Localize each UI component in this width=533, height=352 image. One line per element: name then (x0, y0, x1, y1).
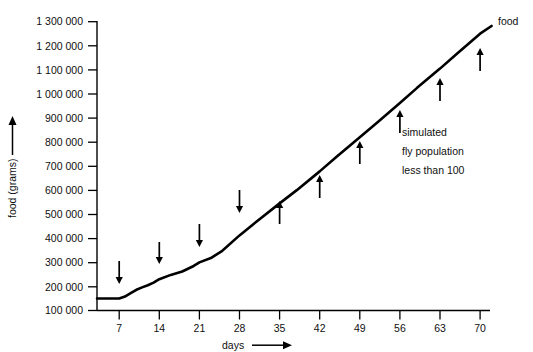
arrow-day-21 (196, 224, 203, 247)
x-tick-label: 14 (153, 322, 165, 334)
y-tick-label: 400 000 (45, 232, 83, 244)
x-axis-direction-arrow-head (283, 341, 292, 349)
y-tick-label: 300 000 (45, 256, 83, 268)
x-tick-label: 70 (474, 322, 486, 334)
annotation-line-1: simulated (402, 126, 447, 138)
arrow-day-7 (116, 261, 123, 284)
y-tick-label: 900 000 (45, 112, 83, 124)
x-tick-label: 49 (354, 322, 366, 334)
x-tick-label: 42 (314, 322, 326, 334)
series-label-food: food (498, 15, 519, 27)
x-axis-title: days (222, 339, 244, 351)
y-tick-marks (88, 22, 97, 311)
y-axis-title: food (grams) (6, 158, 18, 218)
fly-population-food-chart: 1 300 000 1 200 000 1 100 000 1 000 000 … (0, 0, 533, 352)
y-tick-label: 100 000 (45, 304, 83, 316)
arrow-day-70 (477, 48, 484, 71)
x-tick-label: 35 (274, 322, 286, 334)
arrow-day-63 (436, 78, 443, 101)
arrow-day-49 (356, 141, 363, 164)
x-tick-marks (119, 311, 480, 320)
annotation-line-2: fly population (402, 145, 464, 157)
x-tick-label: 21 (194, 322, 206, 334)
x-tick-label: 7 (116, 322, 122, 334)
y-tick-label: 1 100 000 (36, 64, 83, 76)
text-annotation-block: simulated fly population less than 100 (402, 126, 465, 176)
y-axis-direction-arrow-head (9, 116, 17, 125)
arrow-day-14 (156, 242, 163, 264)
y-tick-labels: 1 300 000 1 200 000 1 100 000 1 000 000 … (36, 15, 83, 316)
x-tick-label: 56 (394, 322, 406, 334)
y-tick-label: 1 200 000 (36, 40, 83, 52)
y-tick-label: 600 000 (45, 184, 83, 196)
y-tick-label: 200 000 (45, 281, 83, 293)
y-tick-label: 800 000 (45, 136, 83, 148)
x-tick-label: 28 (234, 322, 246, 334)
y-tick-label: 700 000 (45, 160, 83, 172)
y-tick-label: 1 300 000 (36, 15, 83, 27)
y-tick-label: 500 000 (45, 208, 83, 220)
y-tick-label: 1 000 000 (36, 88, 83, 100)
x-tick-labels: 7 14 21 28 35 42 49 56 63 70 (116, 322, 486, 334)
chart-container: 1 300 000 1 200 000 1 100 000 1 000 000 … (0, 0, 533, 352)
arrow-day-28 (236, 190, 243, 213)
annotation-line-3: less than 100 (402, 164, 465, 176)
x-tick-label: 63 (434, 322, 446, 334)
arrow-day-42 (316, 175, 323, 198)
y-axis-title-group: food (grams) (6, 116, 18, 218)
x-axis-title-group: days (222, 339, 292, 351)
